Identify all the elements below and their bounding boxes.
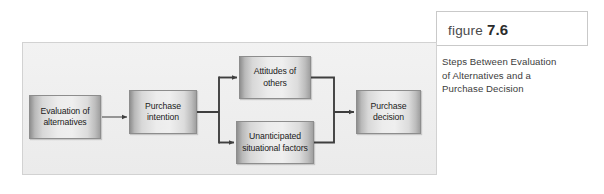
- flow-box-line-2: others: [263, 78, 287, 88]
- flow-box-purchase-decision: Purchase decision: [356, 90, 421, 134]
- flow-box-label: Evaluation of alternatives: [38, 106, 93, 128]
- flow-box-evaluation-of-alternatives: Evaluation of alternatives: [29, 95, 101, 139]
- flow-box-line-2: alternatives: [43, 117, 86, 127]
- flow-box-label: Unanticipated situational factors: [239, 131, 311, 153]
- figure-header-number: 7.6: [487, 21, 508, 38]
- flow-box-line-1: Purchase: [371, 101, 407, 111]
- flow-box-line-2: situational factors: [242, 143, 308, 153]
- flow-box-label: Attitudes of others: [251, 66, 299, 88]
- figure-caption-line-3: Purchase Decision: [442, 82, 592, 96]
- flow-box-line-1: Attitudes of: [254, 66, 296, 76]
- figure-caption-line-1: Steps Between Evaluation: [442, 55, 592, 69]
- flow-box-line-2: intention: [147, 112, 179, 122]
- flow-box-label: Purchase intention: [142, 101, 184, 123]
- diagram-panel: Evaluation of alternatives Purchase inte…: [22, 42, 437, 175]
- flow-box-unanticipated-situational-factors: Unanticipated situational factors: [236, 121, 314, 164]
- figure-caption: Steps Between Evaluation of Alternatives…: [442, 55, 592, 96]
- figure-caption-line-2: of Alternatives and a: [442, 69, 592, 83]
- figure-header-box: figure 7.6: [436, 11, 588, 46]
- connector-merge-to-decision: [312, 78, 352, 143]
- connector-intention-branch: [198, 78, 219, 143]
- flow-box-label: Purchase decision: [368, 101, 410, 123]
- figure-header-word: figure: [448, 23, 483, 38]
- figure-header-title: figure 7.6: [448, 21, 508, 38]
- flow-box-line-1: Evaluation of: [41, 106, 90, 116]
- flow-box-line-2: decision: [373, 112, 404, 122]
- flow-box-line-1: Unanticipated: [249, 131, 301, 141]
- flow-box-attitudes-of-others: Attitudes of others: [239, 56, 311, 99]
- flow-box-purchase-intention: Purchase intention: [129, 90, 197, 134]
- flow-box-line-1: Purchase: [145, 101, 181, 111]
